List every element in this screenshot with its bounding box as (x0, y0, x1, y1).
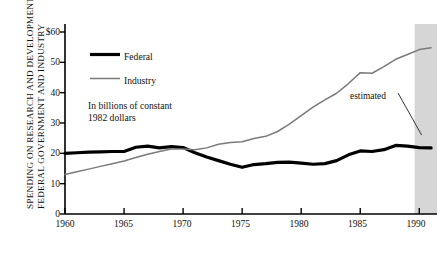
axis-lines (60, 24, 437, 214)
legend-swatches (90, 55, 120, 79)
plot-canvas (0, 0, 445, 268)
series-line-federal (65, 145, 431, 167)
shaded-band-0 (415, 24, 437, 214)
series-line-industry (65, 48, 431, 175)
estimated-shaded-region (415, 24, 437, 214)
chart-figure: FEDERAL GOVERNMENT AND INDUSTRY SPENDING… (0, 0, 445, 268)
series-lines (65, 48, 431, 175)
